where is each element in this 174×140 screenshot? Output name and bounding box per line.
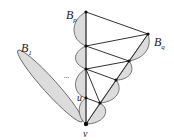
- label-bq: Bq: [154, 35, 165, 51]
- label-b1: B1: [21, 41, 32, 57]
- ellipsis: ...: [64, 72, 70, 80]
- vertex-spine-1: [84, 44, 87, 47]
- chain-lobe-4: [86, 103, 106, 124]
- edges: [86, 12, 148, 124]
- vertex-chain-1: [127, 59, 130, 62]
- label-bp: Bp: [66, 8, 77, 24]
- vertex-v: [84, 122, 88, 126]
- vertex-top: [84, 10, 87, 13]
- vertices: [84, 10, 150, 126]
- vertex-chain-3: [98, 101, 101, 104]
- label-u: u: [77, 92, 82, 103]
- vertex-chain-2: [114, 78, 117, 81]
- vertex-u: [85, 97, 88, 100]
- vertex-spine-2: [84, 67, 87, 70]
- spine-lobe-2: [76, 46, 87, 69]
- graph-diagram: Bp Bq B1 u v ...: [0, 0, 174, 140]
- vertex-bq: [146, 32, 149, 35]
- label-v: v: [83, 128, 88, 139]
